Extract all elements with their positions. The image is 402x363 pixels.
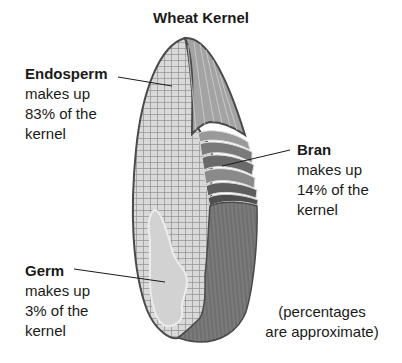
- bran-cap: [185, 38, 245, 135]
- germ-label: Germ makes up 3% of the kernel: [25, 261, 90, 341]
- germ-desc-1: makes up: [25, 281, 90, 301]
- bran-desc-3: kernel: [297, 200, 369, 220]
- bran-name: Bran: [297, 140, 369, 160]
- germ-desc-3: kernel: [25, 321, 90, 341]
- bran-desc-2: 14% of the: [297, 180, 369, 200]
- germ-desc-2: 3% of the: [25, 301, 90, 321]
- approximation-note: (percentages are approximate): [257, 302, 387, 342]
- germ-name: Germ: [25, 261, 90, 281]
- endosperm-desc-3: kernel: [25, 124, 108, 144]
- endosperm-name: Endosperm: [25, 64, 108, 84]
- endosperm-desc-1: makes up: [25, 84, 108, 104]
- endosperm-desc-2: 83% of the: [25, 104, 108, 124]
- bran-desc-1: makes up: [297, 160, 369, 180]
- note-line-2: are approximate): [257, 322, 387, 342]
- note-line-1: (percentages: [257, 302, 387, 322]
- endosperm-label: Endosperm makes up 83% of the kernel: [25, 64, 108, 144]
- bran-label: Bran makes up 14% of the kernel: [297, 140, 369, 220]
